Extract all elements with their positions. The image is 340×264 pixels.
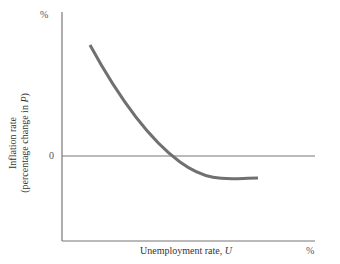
phillips-curve-chart	[0, 0, 340, 264]
y-axis-label-line2: (percentage change in P)	[19, 78, 31, 208]
x-axis-label-variable: U	[225, 245, 232, 256]
x-axis-label-text: Unemployment rate,	[140, 245, 225, 256]
x-axis-label: Unemployment rate, U	[140, 245, 232, 256]
y-axis-label: Inflation rate (percentage change in P)	[7, 78, 37, 208]
y-axis-label-line1: Inflation rate	[7, 78, 19, 208]
phillips-curve	[90, 45, 258, 179]
y-axis-label-variable: P	[19, 97, 30, 103]
y-axis-unit-label: %	[40, 9, 48, 20]
x-axis-unit-label: %	[306, 245, 314, 256]
y-tick-zero: 0	[49, 150, 54, 161]
y-axis-label-line2-end: )	[19, 93, 30, 96]
y-axis-label-line2-text: (percentage change in	[19, 103, 30, 193]
